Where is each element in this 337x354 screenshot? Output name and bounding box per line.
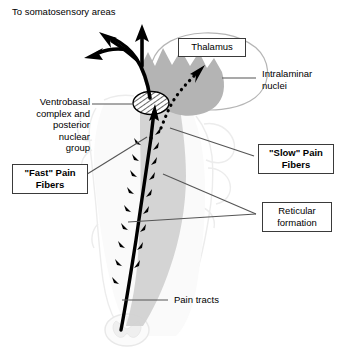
label-fast-pain-fibers: "Fast" Pain Fibers [12, 164, 88, 194]
label-intralaminar-nuclei: Intralaminar nuclei [262, 68, 336, 91]
label-thalamus: Thalamus [178, 38, 246, 57]
label-to-somatosensory-areas: To somatosensory areas [12, 6, 172, 18]
label-reticular-formation: Reticular formation [262, 202, 332, 232]
label-ventrobasal-complex: Ventrobasal complex and posterior nuclea… [8, 96, 90, 154]
label-slow-pain-fibers: "Slow" Pain Fibers [258, 144, 334, 174]
label-pain-tracts: Pain tracts [174, 294, 254, 306]
